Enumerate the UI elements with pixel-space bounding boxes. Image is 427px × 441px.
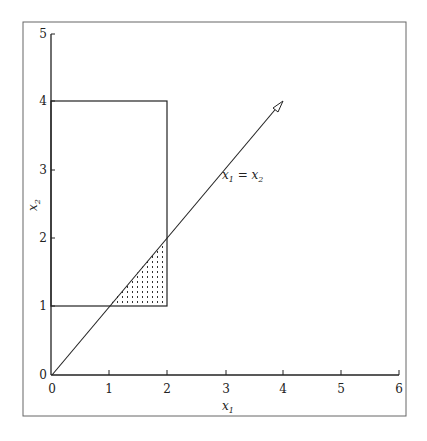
x-axis-label: x1 xyxy=(222,399,234,415)
x-tick-label: 2 xyxy=(163,382,171,396)
x-tick-label: 6 xyxy=(395,382,403,396)
y-axis-label: x2 xyxy=(26,199,42,211)
diagram-canvas: 0 1 2 3 4 5 6 0 1 2 3 4 5 x1 = x2 x1 x2 xyxy=(0,0,427,441)
line-label: x1 = x2 xyxy=(222,168,263,184)
x-tick-label: 0 xyxy=(48,382,56,396)
y-tick-label: 0 xyxy=(39,368,47,382)
x-tick-label: 3 xyxy=(222,382,230,396)
y-tick-label: 1 xyxy=(39,299,47,313)
y-tick-label: 2 xyxy=(39,231,47,245)
x-tick-label: 5 xyxy=(337,382,345,396)
outer-frame xyxy=(23,22,406,416)
x-tick-label: 1 xyxy=(105,382,113,396)
x-tick-label: 4 xyxy=(279,382,287,396)
y-tick-label: 5 xyxy=(39,27,47,41)
x-ticks xyxy=(109,370,399,375)
y-tick-label: 3 xyxy=(39,163,47,177)
diagonal-line xyxy=(52,105,279,375)
y-tick-label: 4 xyxy=(39,94,47,108)
